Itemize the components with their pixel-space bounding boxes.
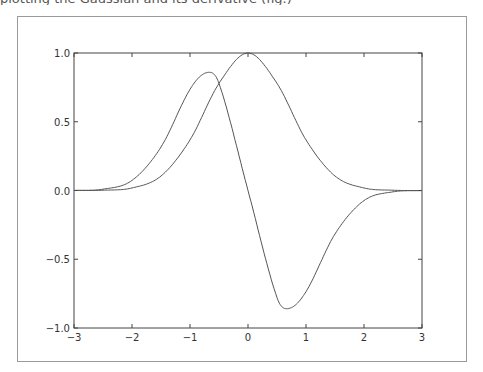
y-tick-label: 1.0 <box>54 48 70 59</box>
x-tick-label: −2 <box>125 332 140 343</box>
gaussian-line <box>74 53 422 191</box>
y-tick-label: 0.0 <box>54 186 70 197</box>
derivative-line <box>74 72 422 308</box>
plot-lines <box>74 53 422 309</box>
x-tick-label: 1 <box>303 332 309 343</box>
x-tick-label: 0 <box>245 332 251 343</box>
x-tick-label: 2 <box>361 332 367 343</box>
chart: −3−2−10123 −1.0−0.50.00.51.0 <box>0 0 483 372</box>
x-tick-label: 3 <box>419 332 425 343</box>
y-axis-ticks: −1.0−0.50.00.51.0 <box>46 48 422 334</box>
x-tick-label: −1 <box>183 332 198 343</box>
x-axis-ticks: −3−2−10123 <box>67 53 426 343</box>
y-tick-label: −0.5 <box>46 254 70 265</box>
y-tick-label: −1.0 <box>46 323 70 334</box>
y-tick-label: 0.5 <box>54 117 70 128</box>
